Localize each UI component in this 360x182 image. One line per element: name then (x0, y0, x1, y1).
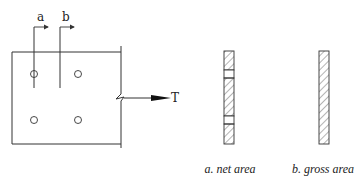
diagram-canvas: a b T a. net area b. gross area (0, 0, 360, 182)
tension-label: T (171, 91, 179, 105)
bolt-hole (75, 117, 82, 124)
arrowhead-icon (151, 95, 171, 101)
plate-outline (12, 52, 121, 144)
section-cut-b: b (60, 10, 74, 88)
net-area-section (224, 51, 234, 144)
gross-area-section (319, 51, 329, 144)
plate (12, 46, 124, 148)
gross-area-caption: b. gross area (292, 162, 354, 176)
tension-arrow: T (124, 91, 179, 105)
break-line (116, 46, 124, 148)
bolt-hole (31, 117, 38, 124)
bolt-hole (75, 71, 82, 78)
net-area-caption: a. net area (204, 162, 255, 176)
section-label-b: b (62, 10, 70, 24)
section-label-a: a (37, 10, 44, 24)
